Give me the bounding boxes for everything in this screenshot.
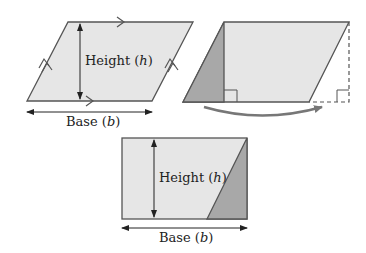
diagram-graphics	[0, 0, 366, 253]
height-label-2: Height (h)	[159, 170, 227, 185]
parallelogram-cut-figure	[183, 22, 349, 116]
diagram: Height (h) Base (b) Height (h) Base (b)	[0, 0, 366, 253]
base-label-2: Base (b)	[159, 230, 213, 245]
base-label-1: Base (b)	[66, 114, 120, 129]
height-label-1: Height (h)	[85, 53, 153, 68]
